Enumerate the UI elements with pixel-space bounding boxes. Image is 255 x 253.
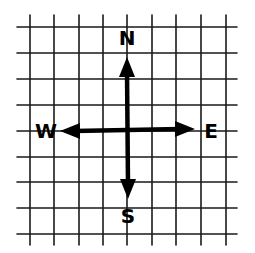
east-arrowhead-icon (175, 121, 195, 137)
compass-svg: N S W E (0, 0, 255, 253)
north-label: N (119, 26, 136, 50)
west-label: W (35, 119, 57, 143)
west-arrowhead-icon (60, 123, 80, 139)
east-label: E (204, 119, 218, 143)
east-west-shaft (74, 129, 181, 131)
south-arrowhead-icon (120, 179, 136, 199)
south-label: S (121, 204, 135, 228)
compass-diagram: N S W E (0, 0, 255, 253)
north-arrowhead-icon (119, 57, 135, 77)
